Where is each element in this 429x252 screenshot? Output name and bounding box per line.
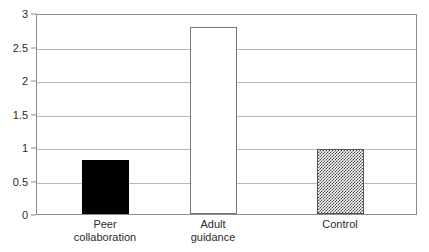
bar-adult-guidance — [190, 27, 237, 214]
x-axis: Peer collaboration Adult guidance Contro… — [36, 218, 417, 252]
bar-chart: 3 2.5 2 1.5 1 0.5 0 Peer collaboration A… — [0, 0, 429, 252]
y-tick-label-2-5: 2.5 — [13, 42, 28, 53]
plot-area — [36, 14, 417, 215]
x-category-label-adult-guidance: Adult guidance — [191, 218, 236, 244]
y-axis: 3 2.5 2 1.5 1 0.5 0 — [0, 0, 36, 216]
y-tick-label-1: 1 — [22, 143, 28, 154]
y-tick-label-1-5: 1.5 — [13, 109, 28, 120]
y-tick-label-0: 0 — [22, 210, 28, 221]
bar-control — [317, 149, 364, 214]
x-category-label-control: Control — [322, 218, 357, 231]
x-category-line-1: Peer — [74, 218, 136, 231]
x-category-line-1: Adult — [191, 218, 236, 231]
y-tick-label-3: 3 — [22, 9, 28, 20]
x-category-line-1: Control — [322, 218, 357, 231]
x-category-line-2: guidance — [191, 231, 236, 244]
y-tick-label-0-5: 0.5 — [13, 176, 28, 187]
y-tick-label-2: 2 — [22, 76, 28, 87]
bar-peer-collaboration — [82, 160, 129, 214]
x-category-line-2: collaboration — [74, 231, 136, 244]
x-category-label-peer-collaboration: Peer collaboration — [74, 218, 136, 244]
